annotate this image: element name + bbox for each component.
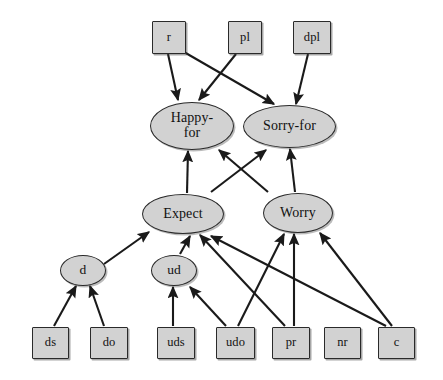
edge-c-to-expect xyxy=(211,236,386,326)
edge-c-to-worry xyxy=(320,233,392,326)
node-happy-for[interactable]: Happy- for xyxy=(150,102,234,150)
edge-d-to-expect xyxy=(104,232,149,264)
node-label-udo: udo xyxy=(224,336,247,349)
node-dpl[interactable]: dpl xyxy=(293,21,331,54)
node-label-c: c xyxy=(392,336,402,349)
edge-worry-to-sorry-for xyxy=(290,149,295,192)
edge-ds-to-d xyxy=(54,286,76,326)
node-label-pl: pl xyxy=(238,31,252,44)
edge-expect-to-happy-for xyxy=(187,151,188,193)
edges-group xyxy=(54,52,392,326)
node-label-ud: ud xyxy=(165,263,183,277)
node-label-uds: uds xyxy=(165,336,187,349)
edge-layer xyxy=(0,0,443,380)
edge-udo-to-worry xyxy=(238,234,284,326)
edge-worry-to-happy-for xyxy=(219,150,268,192)
node-label-worry: Worry xyxy=(278,206,318,221)
node-udo[interactable]: udo xyxy=(216,327,255,359)
edge-dpl-to-sorry-for xyxy=(296,54,308,104)
node-r[interactable]: r xyxy=(152,21,186,54)
edge-pl-to-happy-for xyxy=(199,54,236,100)
node-label-r: r xyxy=(165,31,173,44)
node-nr[interactable]: nr xyxy=(324,327,361,359)
node-label-ds: ds xyxy=(43,336,58,349)
node-label-dpl: dpl xyxy=(302,31,322,44)
node-sorry-for[interactable]: Sorry-for xyxy=(243,105,336,148)
node-ds[interactable]: ds xyxy=(32,327,69,359)
node-do[interactable]: do xyxy=(90,327,128,359)
edge-expect-to-sorry-for xyxy=(211,150,266,192)
diagram-canvas: rpldplHappy- forSorry-forExpectWorrydudd… xyxy=(0,0,443,380)
node-uds[interactable]: uds xyxy=(157,327,195,359)
node-c[interactable]: c xyxy=(378,327,415,359)
edge-r-to-sorry-for xyxy=(184,52,274,104)
node-d[interactable]: d xyxy=(60,255,106,286)
node-label-happy-for: Happy- for xyxy=(169,111,216,140)
node-label-pr: pr xyxy=(284,336,299,349)
node-label-nr: nr xyxy=(335,336,350,349)
node-worry[interactable]: Worry xyxy=(263,193,333,233)
node-label-sorry-for: Sorry-for xyxy=(261,119,318,134)
edge-ud-to-expect xyxy=(180,236,190,254)
node-pl[interactable]: pl xyxy=(228,21,262,54)
node-expect[interactable]: Expect xyxy=(142,194,224,234)
node-ud[interactable]: ud xyxy=(151,255,197,286)
edge-do-to-d xyxy=(90,286,104,326)
node-pr[interactable]: pr xyxy=(272,327,310,359)
node-label-d: d xyxy=(78,263,89,277)
edge-r-to-happy-for xyxy=(168,54,178,100)
node-label-expect: Expect xyxy=(161,207,204,222)
node-label-do: do xyxy=(101,336,118,349)
edge-udo-to-ud xyxy=(190,287,226,326)
